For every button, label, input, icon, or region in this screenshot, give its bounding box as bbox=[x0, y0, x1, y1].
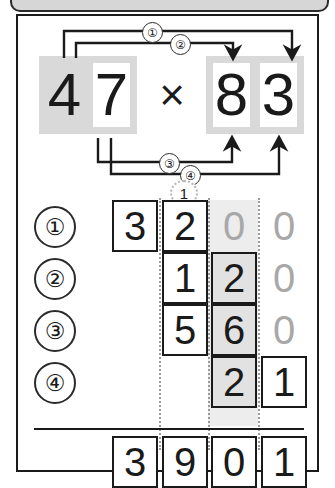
row4-cell-tens: 2 bbox=[211, 356, 257, 408]
row2-cell-tens: 2 bbox=[211, 252, 257, 304]
multiplication-operator: × bbox=[147, 56, 197, 134]
row-label-2: ② bbox=[34, 258, 76, 300]
column-guide-hundreds bbox=[159, 198, 161, 450]
row1-cell-ones: 0 bbox=[261, 200, 307, 252]
total-cell-thousands: 3 bbox=[112, 436, 158, 488]
step-badge-1: ① bbox=[142, 22, 163, 43]
row3-cell-hundreds: 5 bbox=[162, 304, 208, 356]
sum-line bbox=[34, 428, 304, 430]
multiplier-ones-digit: 3 bbox=[253, 56, 304, 134]
row4-cell-ones: 1 bbox=[261, 356, 307, 408]
header-strip bbox=[10, 0, 329, 12]
row-label-4: ④ bbox=[34, 362, 76, 404]
total-cell-ones: 1 bbox=[261, 436, 307, 488]
row-label-1: ① bbox=[34, 206, 76, 248]
row-label-3: ③ bbox=[34, 310, 76, 352]
multiplication-expression: 4 7 × 8 3 bbox=[18, 56, 321, 146]
row1-cell-thousands: 3 bbox=[112, 200, 158, 252]
total-cell-hundreds: 9 bbox=[162, 436, 208, 488]
total-cell-tens: 0 bbox=[211, 436, 257, 488]
row2-cell-hundreds: 1 bbox=[162, 252, 208, 304]
step-badge-3: ③ bbox=[159, 153, 180, 174]
multiplicand-ones-digit: 7 bbox=[86, 56, 137, 134]
column-guide-tens bbox=[208, 198, 210, 450]
row3-cell-tens: 6 bbox=[211, 304, 257, 356]
multiplication-diagram-panel: 4 7 × 8 3 ① ② ③ ④ 1 ① 3 2 0 0 bbox=[16, 14, 319, 472]
column-guide-ones bbox=[258, 198, 260, 450]
step-badge-2: ② bbox=[170, 34, 191, 55]
row1-cell-hundreds: 2 bbox=[162, 200, 208, 252]
multiplicand-tens-digit: 4 bbox=[39, 56, 90, 134]
row1-cell-tens: 0 bbox=[211, 200, 257, 252]
row3-cell-ones: 0 bbox=[261, 304, 307, 356]
partial-products-grid: 1 ① 3 2 0 0 ② 1 2 0 ③ 5 6 0 ④ 2 1 3 9 0 … bbox=[18, 194, 321, 472]
multiplier-tens-digit: 8 bbox=[206, 56, 257, 134]
row2-cell-ones: 0 bbox=[261, 252, 307, 304]
